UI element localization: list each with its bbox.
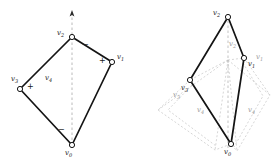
right-vertex-marker-v0	[228, 141, 233, 146]
right-panel	[158, 14, 270, 151]
ghost-right-wing-inner	[234, 63, 263, 147]
right-vertex-label-v0: v0	[224, 149, 231, 156]
quadrilateral-outline	[20, 37, 112, 145]
ghost-label-v1: v1	[256, 54, 263, 61]
figure-canvas: v0 v1 v2 v3 v4 − + + − v2 v1 v3 v0 v2 v1…	[0, 0, 279, 165]
left-panel	[17, 10, 114, 148]
right-vertex-label-v1: v1	[248, 61, 255, 68]
ghost-left-wing	[158, 80, 231, 150]
region-label-v4: v4	[45, 75, 52, 82]
ghost-label-v2: v2	[229, 41, 236, 48]
ghost-construction	[158, 17, 270, 151]
ghost-label-v3: v3	[173, 92, 180, 99]
sign-plus-right: +	[99, 57, 106, 65]
right-vertex-label-v2: v2	[213, 10, 220, 17]
left-axis	[70, 10, 75, 145]
sign-minus-bottom: −	[58, 126, 65, 134]
right-vertex-marker-v2	[225, 14, 230, 19]
transformed-quadrilateral-outline	[190, 17, 244, 144]
sign-minus-top: −	[82, 41, 89, 49]
vertex-marker-v0	[69, 142, 74, 147]
vertex-marker-v1	[109, 59, 114, 64]
ghost-label-v4-left: v4	[197, 107, 204, 114]
vertex-marker-v3	[17, 86, 22, 91]
ghost-label-v4-right: v4	[248, 107, 255, 114]
vertex-label-v1: v1	[117, 54, 124, 61]
vertex-label-v3: v3	[11, 76, 18, 83]
diagram-svg	[0, 0, 279, 165]
right-vertex-marker-v3	[187, 77, 192, 82]
sign-plus-left: +	[27, 83, 34, 91]
axis-arrowhead	[70, 10, 75, 17]
vertex-marker-v2	[69, 34, 74, 39]
vertex-label-v2: v2	[57, 30, 64, 37]
right-vertex-label-v3: v3	[181, 85, 188, 92]
vertex-label-v0: v0	[65, 150, 72, 157]
right-vertex-marker-v1	[241, 55, 246, 60]
